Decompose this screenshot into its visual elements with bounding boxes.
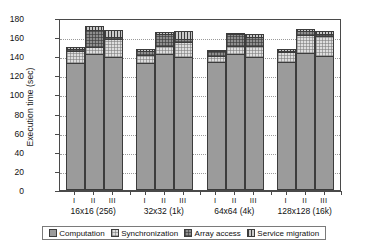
x-axis-group-separator-tick bbox=[271, 191, 272, 195]
stacked-bar[interactable] bbox=[296, 29, 315, 190]
stacked-bar[interactable] bbox=[174, 31, 193, 190]
bar-segment-computation bbox=[207, 62, 226, 190]
x-axis-group-label: 16x16 (256) bbox=[71, 206, 116, 216]
stacked-bar[interactable] bbox=[155, 32, 174, 190]
x-axis-tick-mark bbox=[74, 191, 75, 195]
legend-swatch-array-access-icon bbox=[184, 229, 192, 237]
bar-segment-synchronization bbox=[296, 35, 315, 53]
x-axis-tick-label: III bbox=[250, 196, 257, 205]
bar-segment-synchronization bbox=[136, 55, 155, 63]
stacked-bar[interactable] bbox=[315, 31, 334, 190]
y-axis-tick-label: 20 bbox=[0, 167, 24, 177]
bar-segment-synchronization bbox=[104, 39, 123, 57]
bar-segment-synchronization bbox=[315, 36, 334, 56]
y-axis-tick-label: 160 bbox=[0, 33, 24, 43]
bar-segment-computation bbox=[277, 62, 296, 190]
x-axis-tick-mark bbox=[145, 191, 146, 195]
stacked-bar[interactable] bbox=[85, 26, 104, 190]
y-axis-tick-label: 100 bbox=[0, 90, 24, 100]
legend-item-computation: Computation bbox=[49, 229, 105, 238]
x-axis-group-separator-tick bbox=[341, 191, 342, 195]
stacked-bar[interactable] bbox=[136, 49, 155, 190]
bar-segment-computation bbox=[104, 57, 123, 190]
bar-segment-service-migration bbox=[104, 30, 123, 38]
x-axis-tick-label: I bbox=[214, 196, 216, 205]
x-axis-tick-label: I bbox=[144, 196, 146, 205]
stacked-bar[interactable] bbox=[277, 49, 296, 190]
plot-area bbox=[59, 19, 341, 191]
bar-segment-computation bbox=[245, 57, 264, 190]
legend-label-array-access: Array access bbox=[195, 229, 241, 238]
x-axis-tick-label: II bbox=[302, 196, 307, 205]
x-axis-group-separator-tick bbox=[200, 191, 201, 195]
legend-label-computation: Computation bbox=[59, 229, 104, 238]
x-axis-tick-mark bbox=[286, 191, 287, 195]
x-axis-group-label: 32x32 (1k) bbox=[144, 206, 184, 216]
stacked-bar[interactable] bbox=[245, 34, 264, 190]
y-axis-tick-label: 80 bbox=[0, 110, 24, 120]
x-axis-tick-label: III bbox=[109, 196, 116, 205]
legend-item-synchronization: Synchronization bbox=[111, 229, 178, 238]
y-axis-tick-label: 180 bbox=[0, 14, 24, 24]
y-axis-tick-label: 0 bbox=[0, 186, 24, 196]
y-axis-tick-label: 140 bbox=[0, 52, 24, 62]
legend-swatch-service-migration-icon bbox=[247, 229, 255, 237]
bar-segment-synchronization bbox=[66, 51, 85, 62]
x-axis-tick-mark bbox=[164, 191, 165, 195]
bar-segment-array-access bbox=[155, 34, 174, 45]
bar-segment-synchronization bbox=[226, 46, 245, 55]
legend-item-service-migration: Service migration bbox=[247, 229, 319, 238]
bar-segment-computation bbox=[174, 57, 193, 190]
legend-swatch-computation-icon bbox=[49, 229, 57, 237]
bar-group bbox=[66, 20, 123, 190]
stacked-bar[interactable] bbox=[66, 47, 85, 190]
x-axis-tick-label: II bbox=[232, 196, 237, 205]
legend-label-synchronization: Synchronization bbox=[121, 229, 178, 238]
bar-group bbox=[207, 20, 264, 190]
x-axis-group-label: 64x64 (4k) bbox=[214, 206, 254, 216]
bar-segment-array-access bbox=[245, 37, 264, 46]
legend-label-service-migration: Service migration bbox=[257, 229, 319, 238]
x-axis-tick-label: III bbox=[179, 196, 186, 205]
bar-segment-array-access bbox=[226, 34, 245, 45]
legend-swatch-synchronization-icon bbox=[111, 229, 119, 237]
x-axis-group-separator-tick bbox=[130, 191, 131, 195]
bar-chart: Execution time (sec) 0204060801001201401… bbox=[0, 0, 368, 251]
y-axis-tick-label: 60 bbox=[0, 129, 24, 139]
y-axis-tick-label: 40 bbox=[0, 148, 24, 158]
bar-segment-synchronization bbox=[174, 42, 193, 57]
bar-segment-service-migration bbox=[174, 31, 193, 39]
x-axis-tick-label: I bbox=[73, 196, 75, 205]
y-axis-title: Execution time (sec) bbox=[25, 27, 35, 187]
x-axis-tick-mark bbox=[305, 191, 306, 195]
legend: Computation Synchronization Array access… bbox=[42, 226, 326, 240]
x-axis-tick-mark bbox=[253, 191, 254, 195]
x-axis-tick-label: I bbox=[285, 196, 287, 205]
stacked-bar[interactable] bbox=[104, 30, 123, 191]
x-axis-tick-label: III bbox=[320, 196, 327, 205]
bar-segment-synchronization bbox=[277, 52, 296, 62]
bar-segment-computation bbox=[315, 56, 334, 190]
bar-segment-array-access bbox=[85, 30, 104, 46]
y-axis-tick-label: 120 bbox=[0, 71, 24, 81]
bar-segment-computation bbox=[136, 63, 155, 190]
bar-group bbox=[277, 20, 334, 190]
bar-segment-computation bbox=[155, 54, 174, 190]
x-axis-tick-mark bbox=[93, 191, 94, 195]
x-axis-tick-mark bbox=[112, 191, 113, 195]
legend-item-array-access: Array access bbox=[184, 229, 241, 238]
x-axis-tick-mark bbox=[234, 191, 235, 195]
bar-segment-synchronization bbox=[85, 47, 104, 55]
bar-segment-computation bbox=[85, 54, 104, 190]
x-axis-tick-mark bbox=[215, 191, 216, 195]
bar-segment-synchronization bbox=[155, 46, 174, 55]
stacked-bar[interactable] bbox=[226, 33, 245, 190]
bar-segment-computation bbox=[226, 54, 245, 190]
x-axis-tick-label: II bbox=[161, 196, 166, 205]
bar-segment-synchronization bbox=[245, 46, 264, 57]
x-axis-tick-mark bbox=[324, 191, 325, 195]
x-axis-group-label: 128x128 (16k) bbox=[278, 206, 332, 216]
bar-series-container bbox=[60, 20, 340, 190]
bar-segment-computation bbox=[66, 63, 85, 190]
stacked-bar[interactable] bbox=[207, 50, 226, 190]
